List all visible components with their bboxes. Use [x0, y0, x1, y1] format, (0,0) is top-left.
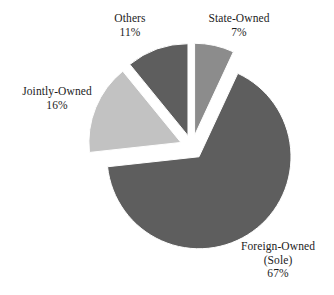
slice-label-jointly-owned-value: 16%	[2, 99, 112, 113]
slice-label-jointly-owned: Jointly-Owned 16%	[2, 85, 112, 112]
slice-label-state-owned: State-Owned 7%	[185, 12, 293, 39]
slice-label-foreign-owned-value: 67%	[222, 267, 334, 281]
slice-label-others: Others 11%	[94, 12, 166, 39]
slice-label-others-value: 11%	[94, 26, 166, 40]
slice-label-foreign-owned: Foreign-Owned (Sole) 67%	[222, 240, 334, 281]
slice-label-jointly-owned-name: Jointly-Owned	[2, 85, 112, 99]
slice-label-state-owned-value: 7%	[185, 26, 293, 40]
slice-label-state-owned-name: State-Owned	[185, 12, 293, 26]
slice-label-others-name: Others	[94, 12, 166, 26]
pie-chart: Others 11% State-Owned 7% Jointly-Owned …	[0, 0, 334, 295]
pie-slices-group	[89, 43, 291, 248]
slice-label-foreign-owned-sublabel: (Sole)	[222, 254, 334, 268]
slice-label-foreign-owned-name: Foreign-Owned	[222, 240, 334, 254]
